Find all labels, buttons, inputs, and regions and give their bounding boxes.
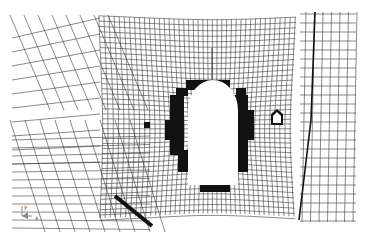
mesh-line <box>12 98 100 108</box>
mesh-line <box>101 194 294 200</box>
mesh-line <box>144 18 150 216</box>
fe-mesh-figure <box>0 0 368 243</box>
mesh-line <box>353 12 357 222</box>
mesh-line <box>12 179 150 181</box>
mesh-line <box>12 212 150 213</box>
mesh-line <box>12 130 100 136</box>
mesh-line <box>12 170 150 172</box>
mesh-line <box>40 120 75 232</box>
mesh-line <box>100 37 296 42</box>
mesh-line <box>55 120 90 232</box>
mesh-line <box>101 68 294 74</box>
mesh-line <box>101 58 295 63</box>
mesh-line <box>99 16 296 20</box>
mesh-line <box>70 120 105 232</box>
mesh-line <box>129 17 134 217</box>
openings <box>188 80 281 185</box>
mesh-line <box>99 32 295 37</box>
mesh-line <box>336 12 340 222</box>
mesh-line <box>285 17 290 216</box>
failed-cell <box>236 88 246 96</box>
axis-label-y: y <box>24 203 28 210</box>
mesh-line <box>99 16 103 218</box>
mesh-line <box>319 12 323 222</box>
mesh-line <box>139 18 144 217</box>
mesh-line <box>12 34 100 52</box>
mesh-line <box>101 74 293 80</box>
mesh-line <box>99 26 296 30</box>
mesh-line <box>134 17 139 216</box>
failed-cell <box>144 122 150 128</box>
failed-cell <box>165 120 175 140</box>
triad-origin <box>22 212 28 219</box>
mesh-line <box>328 12 332 222</box>
mesh-line <box>12 228 150 230</box>
mesh-line <box>290 17 295 217</box>
mesh-line <box>12 220 150 221</box>
axis-label-x: x <box>35 214 39 221</box>
mesh-line <box>100 42 295 47</box>
mesh-line <box>101 199 295 204</box>
failed-cell <box>246 110 254 140</box>
mesh-line <box>100 215 295 220</box>
mesh-line <box>345 12 349 222</box>
tunnel-opening <box>188 80 238 185</box>
mesh-line <box>99 21 296 25</box>
mesh-line <box>12 196 150 197</box>
mesh-line <box>101 189 294 195</box>
mesh-line <box>12 18 100 38</box>
mesh-line <box>12 66 100 80</box>
mesh-line <box>100 48 295 53</box>
mesh-line <box>12 82 100 94</box>
mesh-line <box>25 120 60 232</box>
mesh-line <box>100 53 294 58</box>
